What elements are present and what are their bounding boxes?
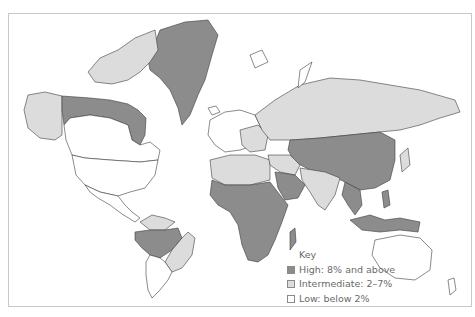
swatch-low — [287, 295, 295, 303]
legend-title: Key — [299, 248, 395, 263]
legend-item-low: Low: below 2% — [287, 292, 395, 307]
region-greenland — [148, 20, 218, 125]
legend-item-intermediate: Intermediate: 2–7% — [287, 277, 395, 292]
map-legend: Key High: 8% and above Intermediate: 2–7… — [287, 248, 395, 306]
legend-label-intermediate: Intermediate: 2–7% — [299, 277, 392, 292]
swatch-intermediate — [287, 280, 295, 288]
swatch-high — [287, 266, 295, 274]
legend-item-high: High: 8% and above — [287, 263, 395, 278]
legend-label-low: Low: below 2% — [299, 292, 370, 307]
world-map — [0, 0, 475, 317]
legend-label-high: High: 8% and above — [299, 263, 395, 278]
